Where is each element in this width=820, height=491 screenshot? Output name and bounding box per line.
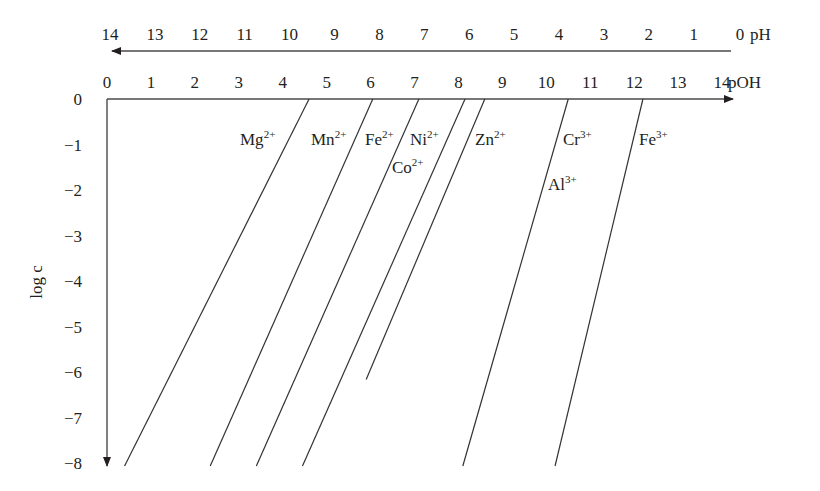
logc-tick: −7	[64, 409, 83, 428]
poh-tick-labels: 01234567891011121314	[103, 73, 731, 92]
ph-tick: 5	[510, 25, 519, 44]
logc-tick: 0	[74, 90, 83, 109]
ph-tick: 3	[600, 25, 609, 44]
ph-tick-labels: 14131211109876543210	[102, 25, 745, 44]
poh-axis-label: pOH	[728, 73, 761, 92]
ph-tick: 11	[237, 25, 253, 44]
label-ni: Ni2+	[410, 128, 439, 149]
label-mn: Mn2+	[311, 128, 346, 149]
poh-tick: 5	[322, 73, 331, 92]
poh-tick: 8	[454, 73, 463, 92]
poh-tick: 13	[670, 73, 687, 92]
ph-tick: 1	[689, 25, 698, 44]
poh-tick: 4	[278, 73, 287, 92]
series-line-fe	[555, 99, 643, 466]
ph-tick: 8	[375, 25, 384, 44]
ph-tick: 14	[102, 25, 120, 44]
poh-tick: 1	[147, 73, 156, 92]
ph-tick: 9	[330, 25, 339, 44]
poh-tick: 3	[235, 73, 244, 92]
ph-tick: 7	[420, 25, 429, 44]
poh-tick: 2	[191, 73, 200, 92]
logc-tick: −3	[64, 227, 82, 246]
poh-tick: 7	[410, 73, 419, 92]
logc-tick: −5	[64, 318, 82, 337]
ph-tick: 0	[736, 25, 745, 44]
ph-tick: 12	[191, 25, 208, 44]
logc-tick: −1	[64, 136, 82, 155]
poh-tick: 10	[538, 73, 555, 92]
ph-tick: 2	[645, 25, 654, 44]
ph-tick: 6	[465, 25, 474, 44]
ph-axis-label: pH	[750, 25, 771, 44]
series-line-mg	[125, 99, 310, 466]
label-fe3: Fe3+	[639, 128, 668, 149]
series-line-ni	[302, 99, 465, 466]
label-mg: Mg2+	[240, 128, 275, 149]
ph-tick: 4	[555, 25, 564, 44]
logc-tick-labels: 0−1−2−3−4−5−6−7−8	[64, 90, 83, 473]
poh-tick: 9	[498, 73, 507, 92]
ph-tick: 10	[281, 25, 298, 44]
poh-tick: 11	[582, 73, 598, 92]
logc-tick: −4	[64, 272, 83, 291]
label-al: Al3+	[548, 173, 577, 194]
series-lines	[125, 99, 643, 466]
series-line-mn	[210, 99, 373, 466]
logc-axis-label: log c	[27, 265, 46, 299]
solubility-chart: 14131211109876543210 pH 0123456789101112…	[0, 0, 820, 491]
label-cr: Cr3+	[563, 128, 592, 149]
logc-tick: −8	[64, 454, 82, 473]
logc-tick: −2	[64, 181, 82, 200]
label-co: Co2+	[392, 156, 424, 177]
poh-tick: 0	[103, 73, 112, 92]
poh-tick: 6	[366, 73, 375, 92]
label-zn: Zn2+	[475, 128, 506, 149]
series-line-cr	[463, 99, 568, 466]
ph-tick: 13	[146, 25, 163, 44]
poh-tick: 12	[626, 73, 643, 92]
label-fe2: Fe2+	[365, 128, 394, 149]
logc-tick: −6	[64, 363, 82, 382]
